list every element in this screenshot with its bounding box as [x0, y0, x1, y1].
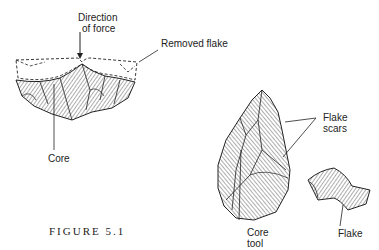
- label-core: Core: [48, 153, 70, 164]
- label-flake-scars-1: Flake: [323, 112, 347, 123]
- core-illustration: [16, 32, 158, 150]
- label-removed-flake: Removed flake: [161, 38, 228, 49]
- flake-illustration: [308, 168, 370, 226]
- core-tool-illustration: [218, 90, 316, 220]
- label-core-tool-2: tool: [247, 238, 263, 249]
- label-direction-of-force-2: of force: [82, 23, 115, 34]
- label-direction-of-force-1: Direction: [78, 12, 117, 23]
- label-flake-scars-2: scars: [323, 123, 347, 134]
- figure-5-1: Direction of force Removed flake Core Fl…: [0, 0, 379, 250]
- figure-caption: FIGURE 5.1: [49, 225, 125, 237]
- label-flake: Flake: [338, 228, 362, 239]
- label-core-tool-1: Core: [247, 227, 269, 238]
